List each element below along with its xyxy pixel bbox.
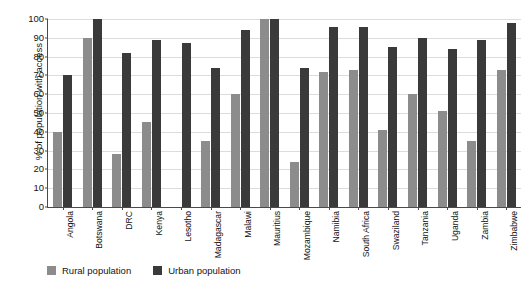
y-axis-tick-label: 10 [33, 183, 44, 193]
x-axis-label-cell: Madagascar [195, 211, 225, 259]
bar[interactable] [182, 43, 191, 207]
x-axis-label-cell: Kenya [136, 211, 166, 259]
x-axis-tick-label: Namibia [332, 211, 341, 243]
bar-group [48, 19, 78, 207]
bar-group [225, 19, 255, 207]
bar-group [491, 19, 521, 207]
x-axis-tick-label: Madagascar [214, 211, 223, 258]
bar[interactable] [93, 19, 102, 207]
x-axis-tick-mark [211, 207, 212, 210]
x-axis-tick-label: South Africa [362, 211, 371, 257]
bar[interactable] [349, 70, 358, 207]
bar[interactable] [418, 38, 427, 207]
x-axis-tick-mark [418, 207, 419, 210]
bar[interactable] [388, 47, 397, 207]
x-axis-label-cell: Uganda [432, 211, 462, 259]
x-axis-label-cell: Mozambique [284, 211, 314, 259]
bar[interactable] [319, 72, 328, 207]
bar[interactable] [142, 122, 151, 207]
y-axis-tick-label: 50 [33, 108, 44, 118]
bar-group [373, 19, 403, 207]
y-axis-tick-label: 40 [33, 127, 44, 137]
x-axis-label-cell: Mauritius [254, 211, 284, 259]
bar-groups [48, 19, 521, 207]
bar[interactable] [211, 68, 220, 207]
x-axis-labels: AngolaBotswanaDRCKenyaLesothoMadagascarM… [47, 211, 521, 259]
x-axis-label-cell: Malawi [225, 211, 255, 259]
bar-group [196, 19, 226, 207]
x-axis-tick-label: Angola [66, 211, 75, 238]
bar[interactable] [83, 38, 92, 207]
bar-group [107, 19, 137, 207]
bar[interactable] [300, 68, 309, 207]
x-axis-tick-mark [506, 207, 507, 210]
bar-group [344, 19, 374, 207]
bar[interactable] [63, 75, 72, 207]
clipped-chart-title [0, 0, 527, 7]
bar[interactable] [270, 19, 279, 207]
x-axis-tick-mark [388, 207, 389, 210]
legend-swatch [153, 266, 162, 275]
x-axis-tick-mark [63, 207, 64, 210]
x-axis-label-cell: Botswana [77, 211, 107, 259]
bar[interactable] [477, 40, 486, 207]
bar-group [137, 19, 167, 207]
bar[interactable] [112, 154, 121, 207]
bar[interactable] [241, 30, 250, 207]
x-axis-label-cell: Lesotho [166, 211, 196, 259]
bar[interactable] [448, 49, 457, 207]
y-axis-tick-label: 100 [28, 14, 44, 24]
bar[interactable] [53, 132, 62, 207]
bar[interactable] [122, 53, 131, 207]
x-axis-tick-label: Malawi [244, 211, 253, 238]
bar[interactable] [359, 27, 368, 207]
x-axis-tick-label: Botswana [95, 211, 104, 249]
x-axis-tick-label: Zimbabwe [510, 211, 519, 251]
bar[interactable] [497, 70, 506, 207]
legend-label: Rural population [62, 265, 131, 276]
bar[interactable] [152, 40, 161, 207]
x-axis-tick-mark [358, 207, 359, 210]
chart-legend: Rural populationUrban population [47, 265, 241, 276]
y-axis-tick-label: 20 [33, 165, 44, 175]
y-axis-tick-label: 70 [33, 71, 44, 81]
bar-group [403, 19, 433, 207]
x-axis-tick-mark [92, 207, 93, 210]
x-axis-tick-mark [477, 207, 478, 210]
bar-group [255, 19, 285, 207]
x-axis-tick-label: Tanzania [421, 211, 430, 245]
bar-group [78, 19, 108, 207]
x-axis-tick-label: Kenya [155, 211, 164, 235]
legend-label: Urban population [168, 265, 240, 276]
plot-area: 1009080706050403020100 [47, 19, 521, 208]
bar[interactable] [507, 23, 516, 207]
x-axis-label-cell: Swaziland [373, 211, 403, 259]
bar[interactable] [378, 130, 387, 207]
y-axis-tick-label: 0 [39, 202, 44, 212]
legend-item[interactable]: Urban population [153, 265, 240, 276]
bar-chart-figure: % of population with access 100908070605… [0, 0, 527, 288]
x-axis-label-cell: Zambia [462, 211, 492, 259]
bar[interactable] [408, 94, 417, 207]
bar[interactable] [290, 162, 299, 207]
bar[interactable] [467, 141, 476, 207]
x-axis-tick-mark [270, 207, 271, 210]
y-axis-tick-label: 80 [33, 52, 44, 62]
x-axis-tick-label: Zambia [481, 211, 490, 240]
x-axis-tick-label: Mozambique [303, 211, 312, 260]
bar[interactable] [329, 27, 338, 207]
x-axis-tick-label: Swaziland [392, 211, 401, 250]
bar[interactable] [231, 94, 240, 207]
x-axis-label-cell: Zimbabwe [491, 211, 521, 259]
x-axis-tick-label: Uganda [451, 211, 460, 241]
x-axis-label-cell: DRC [106, 211, 136, 259]
bar-group [166, 19, 196, 207]
x-axis-tick-label: Mauritius [273, 211, 282, 246]
legend-item[interactable]: Rural population [47, 265, 131, 276]
bar[interactable] [201, 141, 210, 207]
x-axis-tick-mark [151, 207, 152, 210]
bar[interactable] [260, 19, 269, 207]
x-axis-tick-label: Lesotho [184, 211, 193, 242]
bar[interactable] [438, 111, 447, 207]
x-axis-label-cell: Angola [47, 211, 77, 259]
